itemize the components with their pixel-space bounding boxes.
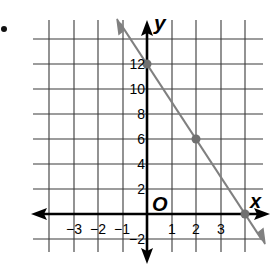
svg-text:−2: −2 [129,231,145,247]
svg-text:1: 1 [168,221,176,237]
svg-text:2: 2 [192,221,200,237]
point-2-6 [192,135,201,144]
svg-text:12: 12 [129,56,145,72]
x-axis-label: x [249,190,262,212]
origin-label: O [152,193,168,215]
svg-text:3: 3 [217,221,225,237]
svg-text:−1: −1 [114,221,130,237]
svg-text:−3: −3 [66,221,82,237]
x-tick-labels: −3 −2 −1 1 2 3 [66,221,225,237]
svg-text:−2: −2 [90,221,106,237]
svg-text:10: 10 [129,81,145,97]
svg-text:8: 8 [137,106,145,122]
svg-text:2: 2 [137,181,145,197]
coordinate-graph: y x O 12 10 8 6 4 2 −2 −3 −2 −1 1 2 3 [0,0,278,275]
point-4-0 [241,210,250,219]
x-axis [31,208,270,220]
svg-text:6: 6 [137,131,145,147]
y-axis-label: y [153,11,167,34]
svg-text:4: 4 [137,156,145,172]
y-tick-labels: 12 10 8 6 4 2 −2 [129,56,145,247]
